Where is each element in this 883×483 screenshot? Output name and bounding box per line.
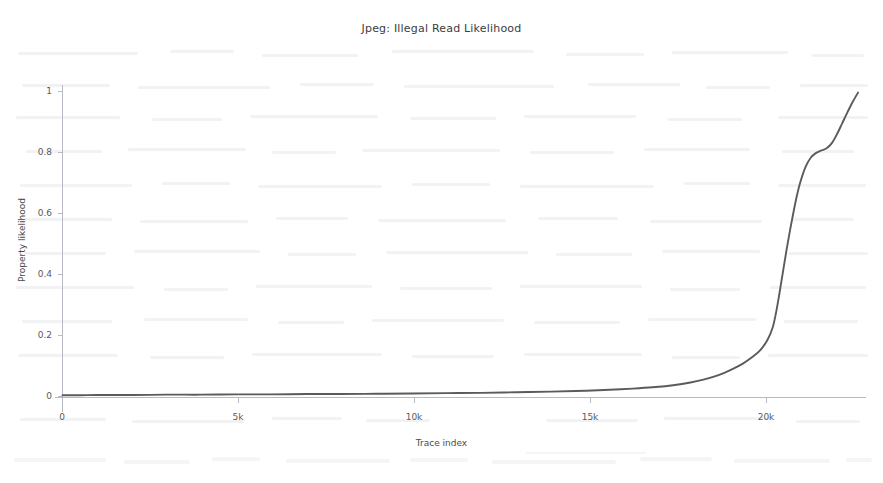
x-tick-label-20k: 20k [758,412,775,422]
plot-area [0,0,883,483]
y-tick-label-0.6: 0.6 [26,208,52,218]
y-tick-label-0: 0 [38,391,52,401]
y-tick-marks [58,92,63,397]
x-tick-marks [63,398,767,404]
y-tick-label-0.8: 0.8 [26,147,52,157]
y-axis-label: Property likelihood [17,198,27,282]
x-tick-label-15k: 15k [582,412,599,422]
x-tick-label-0: 0 [59,412,65,422]
x-tick-label-5k: 5k [233,412,244,422]
x-tick-label-10k: 10k [406,412,423,422]
x-axis-label: Trace index [0,438,883,448]
y-tick-label-0.4: 0.4 [26,269,52,279]
data-series-line [63,93,859,396]
y-tick-label-1: 1 [38,86,52,96]
y-tick-label-0.2: 0.2 [26,330,52,340]
chart-page: Jpeg: Illegal Read Likelihood 1 0.8 0.6 … [0,0,883,483]
